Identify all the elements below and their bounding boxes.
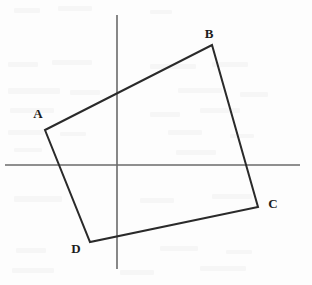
vertex-label-d: D [71,242,80,255]
vertex-label-b: B [205,27,214,40]
diagram-canvas [0,0,312,285]
vertex-label-a: A [33,107,42,120]
vertex-label-c: C [268,197,277,210]
quadrilateral-ABCD [45,45,258,242]
geometry-figure: ABCD [0,0,312,285]
